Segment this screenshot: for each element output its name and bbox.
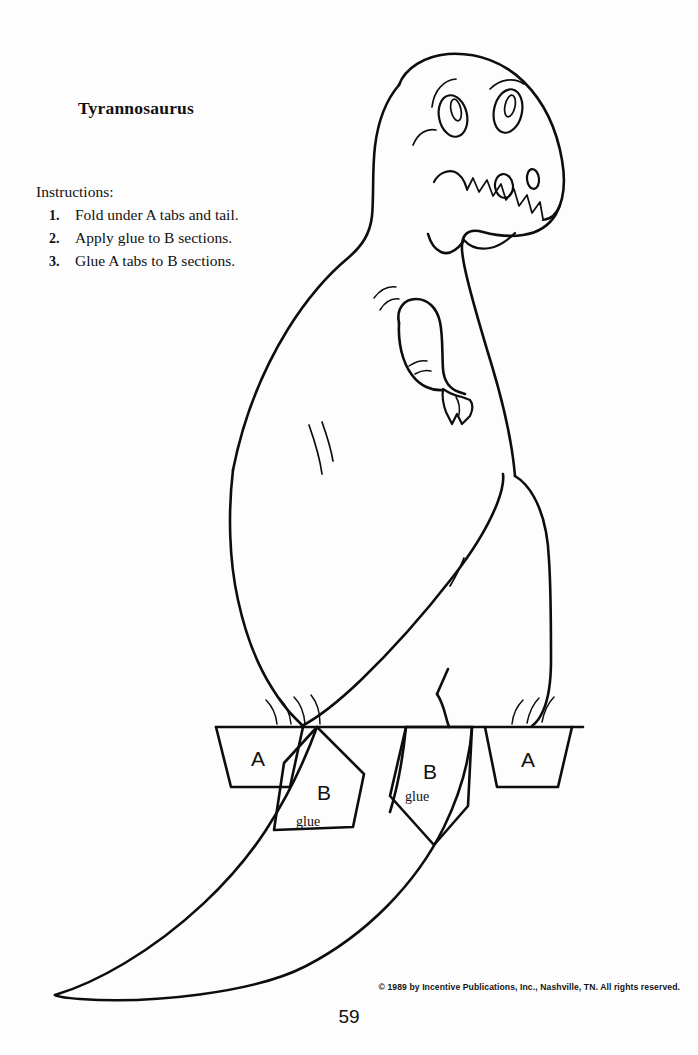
eye-right	[490, 87, 527, 136]
glue-left-label: glue	[296, 814, 320, 830]
claw	[443, 389, 473, 424]
tab-a-right-label: A	[521, 748, 535, 772]
cheek-crease	[413, 130, 436, 145]
arm-outline	[398, 299, 465, 394]
rear-leg-inner-edge	[437, 669, 448, 694]
tail-seam	[390, 727, 406, 812]
page-title: Tyrannosaurus	[78, 98, 194, 119]
shoulder-hash-2	[380, 299, 399, 310]
instruction-item-3: 3. Glue A tabs to B sections.	[36, 250, 239, 273]
arm-crease-2	[415, 371, 431, 374]
instructions-heading: Instructions:	[36, 182, 239, 202]
pupil-right	[503, 94, 517, 118]
nostril-large	[494, 173, 514, 199]
snout-lower-edge	[543, 205, 560, 220]
throat-line	[428, 234, 463, 253]
flank-crease-1	[309, 425, 322, 474]
page-number: 59	[0, 1006, 698, 1028]
hip-outline-right	[515, 476, 551, 726]
instruction-text: Glue A tabs to B sections.	[75, 250, 235, 272]
foot-hash-right-2	[527, 698, 539, 723]
head-and-back-outline	[399, 54, 564, 476]
arm-crease-1	[409, 361, 427, 366]
foot-hash-right-1	[512, 700, 523, 724]
eyebrow-right	[490, 80, 524, 89]
tab-b-right-glue-panel	[390, 727, 472, 845]
glue-right-label: glue	[405, 789, 429, 805]
instruction-item-2: 2. Apply glue to B sections.	[36, 227, 239, 250]
rear-leg-front-edge	[437, 694, 449, 727]
tab-a-left-label: A	[251, 747, 265, 771]
nostril-small	[526, 168, 540, 189]
pupil-left	[449, 98, 463, 122]
eyebrow-left	[432, 79, 456, 107]
tab-b-left-label: B	[317, 781, 331, 805]
copyright-notice: © 1989 by Incentive Publications, Inc., …	[0, 982, 680, 992]
foot-hash-left-3	[294, 697, 305, 724]
eye-left	[435, 93, 471, 140]
foot-hash-left-2	[280, 699, 291, 724]
instructions-list: 1. Fold under A tabs and tail. 2. Apply …	[36, 204, 239, 273]
flank-crease-2	[322, 422, 333, 461]
tab-b-right-label: B	[423, 760, 437, 784]
instruction-item-1: 1. Fold under A tabs and tail.	[36, 204, 239, 227]
foot-hash-left-1	[266, 700, 277, 724]
mouth-line	[434, 171, 467, 189]
neck-back-contour	[233, 85, 399, 470]
jaw-underline	[464, 233, 515, 249]
tyrannosaurus-figure	[0, 0, 698, 1055]
instruction-number: 2.	[49, 228, 75, 250]
thigh-inner-curve	[302, 474, 503, 726]
foot-hash-right-3	[542, 697, 554, 722]
instruction-number: 1.	[49, 205, 75, 227]
instruction-number: 3.	[49, 251, 75, 273]
foot-hash-left-4	[311, 695, 320, 724]
knee-crease	[450, 558, 464, 586]
shoulder-hash-1	[374, 287, 396, 298]
teeth	[467, 178, 543, 219]
instructions-block: Instructions: 1. Fold under A tabs and t…	[36, 182, 239, 273]
arm-underside	[399, 323, 443, 390]
belly-and-front-leg	[230, 470, 302, 725]
tail-upper-edge	[55, 727, 317, 995]
worksheet-page: Tyrannosaurus Instructions: 1. Fold unde…	[0, 0, 698, 1055]
instruction-text: Apply glue to B sections.	[75, 227, 232, 249]
claw-crease	[456, 397, 459, 415]
instruction-text: Fold under A tabs and tail.	[75, 204, 239, 226]
